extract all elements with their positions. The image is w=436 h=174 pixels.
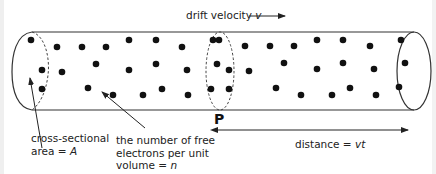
electron-dot <box>216 37 223 44</box>
left-end-arc <box>12 32 32 110</box>
cross-section-label: cross-sectional area = A <box>31 132 109 157</box>
electron-dot <box>159 86 166 93</box>
electron-dot <box>226 67 233 74</box>
electron-dot <box>291 43 298 50</box>
electron-dot <box>373 92 380 99</box>
electron-dot <box>329 92 336 99</box>
electron-dot <box>242 43 249 50</box>
electron-dot <box>28 37 35 44</box>
electron-dot <box>246 68 253 75</box>
electron-dot <box>347 85 354 92</box>
electron-dot <box>153 61 160 68</box>
electron-dot <box>210 37 217 44</box>
electron-dot <box>85 85 92 92</box>
electron-dot <box>39 67 46 74</box>
electron-density-label: the number of free electrons per unit vo… <box>116 134 215 172</box>
electron-dot <box>281 60 288 67</box>
point-p-label: P <box>214 111 224 127</box>
electron-dot <box>126 67 133 74</box>
electron-dot <box>402 60 409 67</box>
electron-dot <box>39 86 46 93</box>
electron-dot <box>214 61 221 68</box>
electron-dot <box>126 37 133 44</box>
electron-dot <box>371 66 378 73</box>
electron-dot <box>314 37 321 44</box>
electron-dot <box>314 66 321 73</box>
electron-dot <box>273 85 280 92</box>
distance-label: distance = vt <box>295 138 365 151</box>
electron-dot <box>59 69 66 76</box>
electron-dot <box>54 44 61 51</box>
electron-dot <box>396 84 403 91</box>
electron-dot <box>398 37 405 44</box>
electron-dot <box>226 86 233 93</box>
electron-dot <box>367 43 374 50</box>
right-end-ellipse <box>397 32 431 110</box>
electron-dot <box>110 92 117 99</box>
electron-dot <box>208 86 215 93</box>
electron-dot <box>340 60 347 67</box>
electron-dot <box>185 92 192 99</box>
drift-velocity-label: drift velocity v <box>186 9 261 22</box>
free-electrons <box>28 37 409 99</box>
electron-dot <box>179 44 186 51</box>
electron-dot <box>93 61 100 68</box>
electron-dot <box>340 37 347 44</box>
electron-dot <box>103 44 110 51</box>
electron-dot <box>298 92 305 99</box>
electron-dot <box>79 44 86 51</box>
electron-dot <box>140 92 147 99</box>
electron-dot <box>184 67 191 74</box>
drift-velocity-diagram: drift velocity v P cross-sectional area … <box>0 0 436 174</box>
electron-dot <box>153 37 160 44</box>
electron-dot <box>267 43 274 50</box>
